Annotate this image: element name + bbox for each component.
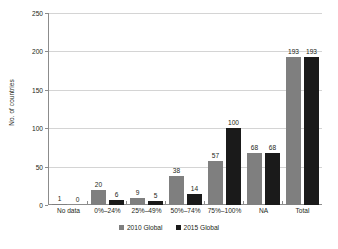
bar[interactable]: 9 xyxy=(130,198,145,205)
y-tick-mark xyxy=(45,90,48,91)
x-tick-label: 75%–100% xyxy=(205,207,244,214)
bar-value-label: 9 xyxy=(136,190,140,197)
bar[interactable]: 6 xyxy=(109,200,124,205)
bar-chart-figure: No. of countries 050100150200250 1020695… xyxy=(0,0,338,249)
bar-group: 95 xyxy=(127,13,166,205)
x-tick-label: No data xyxy=(49,207,88,214)
y-tick-label: 100 xyxy=(32,125,43,132)
bar-group: 6868 xyxy=(244,13,283,205)
bar[interactable]: 193 xyxy=(304,57,319,205)
bar-group: 3814 xyxy=(166,13,205,205)
legend-swatch-icon xyxy=(176,225,181,230)
legend-label: 2015 Global xyxy=(184,224,220,231)
bar[interactable]: 68 xyxy=(265,153,280,205)
bar[interactable]: 38 xyxy=(169,176,184,205)
bar[interactable]: 57 xyxy=(208,161,223,205)
bar[interactable]: 14 xyxy=(187,194,202,205)
x-tick-label: NA xyxy=(244,207,283,214)
y-tick-mark xyxy=(45,51,48,52)
x-tick-label: 0%–24% xyxy=(88,207,127,214)
legend-swatch-icon xyxy=(119,225,124,230)
y-tick-mark xyxy=(45,13,48,14)
y-tick-mark xyxy=(45,128,48,129)
bar[interactable]: 20 xyxy=(91,190,106,205)
x-tick-label: 25%–49% xyxy=(127,207,166,214)
bar[interactable]: 1 xyxy=(52,204,67,205)
y-tick-label: 0 xyxy=(39,202,43,209)
bar-value-label: 193 xyxy=(288,49,299,56)
bar-value-label: 68 xyxy=(251,145,258,152)
legend-entry[interactable]: 2010 Global xyxy=(119,224,163,231)
y-tick-label: 150 xyxy=(32,86,43,93)
y-tick-mark xyxy=(45,205,48,206)
y-axis-title-text: No. of countries xyxy=(8,79,15,125)
bar-value-label: 5 xyxy=(154,193,158,200)
bar-group: 206 xyxy=(88,13,127,205)
bar[interactable]: 193 xyxy=(286,57,301,205)
chart-legend: 2010 Global2015 Global xyxy=(0,224,338,231)
x-tick-label: Total xyxy=(283,207,322,214)
legend-entry[interactable]: 2015 Global xyxy=(176,224,220,231)
plot-area: 050100150200250 102069538145710068681931… xyxy=(48,13,322,205)
y-tick-label: 50 xyxy=(36,163,43,170)
bar-group: 193193 xyxy=(283,13,322,205)
bar-value-label: 1 xyxy=(58,196,62,203)
legend-label: 2010 Global xyxy=(127,224,163,231)
y-tick-label: 250 xyxy=(32,10,43,17)
y-axis-title: No. of countries xyxy=(2,0,20,205)
y-tick-label: 200 xyxy=(32,48,43,55)
x-tick-label: 50%–74% xyxy=(166,207,205,214)
y-tick-mark xyxy=(45,167,48,168)
bar-group: 57100 xyxy=(205,13,244,205)
bar-groups-layer: 10206953814571006868193193 xyxy=(49,13,322,205)
bar-value-label: 57 xyxy=(212,153,219,160)
bar-value-label: 20 xyxy=(95,182,102,189)
bar[interactable]: 68 xyxy=(247,153,262,205)
x-axis-tick-labels: No data0%–24%25%–49%50%–74%75%–100%NATot… xyxy=(49,207,322,214)
bar[interactable]: 100 xyxy=(226,128,241,205)
bar[interactable]: 5 xyxy=(148,201,163,205)
bar-value-label: 0 xyxy=(76,197,80,204)
bar-value-label: 193 xyxy=(306,49,317,56)
bar-value-label: 6 xyxy=(115,192,119,199)
bar-group: 10 xyxy=(49,13,88,205)
bar-value-label: 38 xyxy=(173,168,180,175)
bar-value-label: 68 xyxy=(269,145,276,152)
bar-value-label: 100 xyxy=(228,120,239,127)
bar-value-label: 14 xyxy=(191,186,198,193)
